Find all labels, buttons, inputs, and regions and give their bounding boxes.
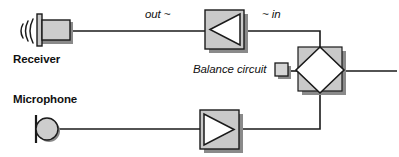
in-signal-label: ~ in bbox=[262, 9, 280, 21]
wire-amp-to-hybrid-top bbox=[248, 31, 320, 47]
circuit-diagram: Receiver Microphone out ~ ~ in Balance c… bbox=[0, 0, 399, 157]
microphone-capsule bbox=[36, 115, 60, 143]
wire-amp-to-hybrid-bottom bbox=[243, 95, 320, 129]
balance-circuit-label: Balance circuit bbox=[193, 64, 266, 76]
receiver-body bbox=[42, 20, 70, 40]
diagram-canvas bbox=[0, 0, 399, 157]
balance-circuit-box bbox=[275, 63, 291, 79]
receive-amplifier bbox=[205, 10, 248, 53]
sound-waves-icon bbox=[21, 19, 33, 43]
balance-circuit-square bbox=[275, 63, 288, 76]
out-signal-label: out ~ bbox=[145, 9, 170, 21]
microphone-head bbox=[36, 118, 58, 140]
transmit-amplifier bbox=[200, 110, 243, 153]
receiver-speaker bbox=[21, 14, 73, 46]
receiver-faceplate bbox=[37, 14, 42, 46]
receiver-label: Receiver bbox=[13, 54, 60, 66]
microphone-label: Microphone bbox=[13, 94, 77, 106]
hybrid-diamond bbox=[296, 47, 346, 95]
